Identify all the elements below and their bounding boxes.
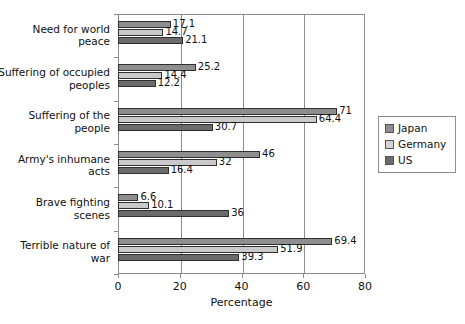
bar-value-label: 25.2 <box>198 61 220 72</box>
bar-value-label: 32 <box>219 156 232 167</box>
y-tick <box>114 57 118 58</box>
legend-item[interactable]: Japan <box>385 122 449 134</box>
bar <box>118 29 163 36</box>
bar <box>118 108 337 115</box>
legend-item[interactable]: Germany <box>385 138 449 150</box>
category-label: Need for world peace <box>0 23 110 48</box>
category-axis-labels: Need for world peaceSuffering of occupie… <box>0 14 114 274</box>
y-tick <box>114 101 118 102</box>
bar-group: 17.114.721.1 <box>118 14 365 57</box>
legend-swatch <box>385 156 394 165</box>
category-label: Army's inhumane acts <box>0 153 110 178</box>
y-tick <box>114 144 118 145</box>
category-label: Suffering of occupied peoples <box>0 66 110 91</box>
figure: Need for world peaceSuffering of occupie… <box>0 0 465 324</box>
category-label: Terrible nature of war <box>0 239 110 264</box>
bar-group: 6.610.136 <box>118 187 365 230</box>
bar-group: 7164.430.7 <box>118 101 365 144</box>
legend-item[interactable]: US <box>385 154 449 166</box>
bar <box>118 21 171 28</box>
x-tick-label: 80 <box>358 280 372 293</box>
x-tick-label: 60 <box>296 280 310 293</box>
legend-label: Japan <box>398 122 427 134</box>
bar-group: 25.214.412.2 <box>118 57 365 100</box>
y-tick <box>114 231 118 232</box>
x-tick <box>303 274 304 278</box>
bar-value-label: 39.3 <box>241 251 263 262</box>
bar <box>118 254 239 261</box>
legend-label: Germany <box>398 138 446 150</box>
category-label: Suffering of the people <box>0 109 110 134</box>
bar <box>118 159 217 166</box>
bar <box>118 80 156 87</box>
bar-value-label: 16.4 <box>171 164 193 175</box>
bar <box>118 202 149 209</box>
x-tick <box>180 274 181 278</box>
legend-swatch <box>385 124 394 133</box>
x-tick-label: 20 <box>173 280 187 293</box>
bar <box>118 151 260 158</box>
y-tick <box>114 187 118 188</box>
bar-groups: 17.114.721.125.214.412.27164.430.7463216… <box>118 14 365 274</box>
x-tick <box>242 274 243 278</box>
bar-value-label: 64.4 <box>319 113 341 124</box>
x-tick-label: 40 <box>235 280 249 293</box>
bar-group: 463216.4 <box>118 144 365 187</box>
bar-group: 69.451.939.3 <box>118 231 365 274</box>
bar-value-label: 21.1 <box>185 34 207 45</box>
bar <box>118 194 138 201</box>
bar <box>118 72 162 79</box>
x-axis-title: Percentage <box>118 296 365 309</box>
x-tick <box>118 274 119 278</box>
bar-value-label: 30.7 <box>215 121 237 132</box>
bar-value-label: 36 <box>231 207 244 218</box>
bar-value-label: 12.2 <box>158 77 180 88</box>
bar-value-label: 71 <box>339 105 352 116</box>
legend-swatch <box>385 140 394 149</box>
legend: JapanGermanyUS <box>378 116 456 173</box>
bar-value-label: 46 <box>262 148 275 159</box>
x-tick <box>365 274 366 278</box>
bar <box>118 37 183 44</box>
bar <box>118 210 229 217</box>
legend-label: US <box>398 154 412 166</box>
category-label: Brave fighting scenes <box>0 196 110 221</box>
bar <box>118 167 169 174</box>
bar-value-label: 10.1 <box>151 199 173 210</box>
bar-value-label: 69.4 <box>334 235 356 246</box>
y-tick <box>114 14 118 15</box>
bar <box>118 124 213 131</box>
x-tick-label: 0 <box>115 280 122 293</box>
bar-value-label: 51.9 <box>280 243 302 254</box>
